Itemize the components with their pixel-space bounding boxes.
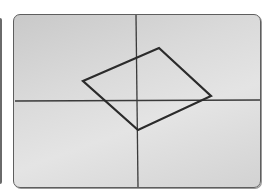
coordinate-plane-panel — [13, 14, 261, 188]
coordinate-plane-svg — [13, 14, 261, 188]
diagram-stage — [0, 0, 265, 194]
parallelogram-shape — [83, 48, 211, 130]
adjacent-panel-edge — [0, 18, 2, 184]
